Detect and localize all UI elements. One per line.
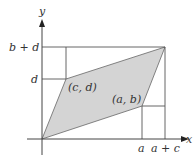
tick-label-a: a <box>138 142 145 155</box>
point-label-ab: (a, b) <box>112 93 141 106</box>
x-axis-label: x <box>186 133 193 146</box>
point-label-cd: (c, d) <box>68 81 97 94</box>
parallelogram-diagram: x y b + d d a a + c (c, d) (a, b) <box>0 0 194 162</box>
tick-label-b-plus-d: b + d <box>9 41 39 54</box>
y-axis-arrow-icon <box>39 19 45 27</box>
tick-label-a-plus-c: a + c <box>151 142 180 155</box>
y-axis-label: y <box>38 5 46 18</box>
tick-label-d: d <box>31 73 38 86</box>
parallelogram <box>42 47 165 139</box>
